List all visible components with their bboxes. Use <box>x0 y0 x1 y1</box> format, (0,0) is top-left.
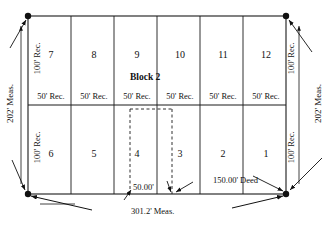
depth-label-right-top: 100' Rec. <box>287 31 296 85</box>
corner-monument-ne <box>283 13 289 19</box>
lot-number-9: 9 <box>120 50 154 60</box>
leader-arrow-sw-horiz <box>31 196 92 210</box>
frontage-label-lot-12: 50' Rec. <box>246 92 286 101</box>
parcel-width-label: 50.00' <box>133 183 154 192</box>
lot-number-2: 2 <box>206 149 240 159</box>
dim-arrow-parcel-left <box>124 190 131 200</box>
lot-number-12: 12 <box>249 50 283 60</box>
lot-number-11: 11 <box>206 50 240 60</box>
block-label: Block 2 <box>130 73 160 83</box>
depth-label-left-top: 100' Rec. <box>33 31 42 85</box>
frontage-label-lot-9: 50' Rec. <box>117 92 157 101</box>
lot-number-10: 10 <box>163 50 197 60</box>
overall-depth-label-right: 202' Meas. <box>314 76 323 132</box>
leader-arrow-nw <box>10 20 26 48</box>
frontage-label-lot-10: 50' Rec. <box>160 92 200 101</box>
overall-width-label: 301.2' Meas. <box>131 207 174 216</box>
parcel-depth-label: 150.00' Deed <box>213 176 258 185</box>
lot-number-3: 3 <box>163 149 197 159</box>
lot-number-5: 5 <box>77 149 111 159</box>
corner-monument-se <box>283 191 289 197</box>
plat-linework <box>0 0 336 229</box>
depth-label-left-bottom: 100' Rec. <box>33 120 42 174</box>
corner-monument-sw <box>25 191 31 197</box>
survey-plat-diagram: 7 8 9 10 11 12 Block 2 50' Rec. 50' Rec.… <box>0 0 336 229</box>
dim-arrow-parcel-right-2 <box>176 182 193 192</box>
corner-monument-nw <box>25 13 31 19</box>
lot-number-8: 8 <box>77 50 111 60</box>
lot-number-4: 4 <box>120 149 154 159</box>
frontage-label-lot-7: 50' Rec. <box>31 92 71 101</box>
frontage-label-lot-11: 50' Rec. <box>203 92 243 101</box>
dim-arrow-parcel-right <box>167 181 171 192</box>
lot-number-1: 1 <box>249 149 283 159</box>
leader-arrow-sw-vert <box>12 160 25 190</box>
overall-depth-label-left: 202' Meas. <box>6 76 15 132</box>
depth-label-right-bottom: 100' Rec. <box>287 120 296 174</box>
frontage-label-lot-8: 50' Rec. <box>74 92 114 101</box>
leader-arrow-se-horiz <box>232 196 283 208</box>
